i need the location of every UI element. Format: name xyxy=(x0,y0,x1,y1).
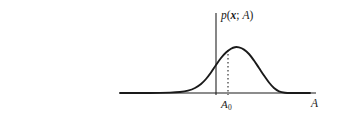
density-curve xyxy=(120,47,310,93)
figure-container: p(x; A) A0 A xyxy=(0,0,339,127)
plot-canvas xyxy=(0,0,339,127)
